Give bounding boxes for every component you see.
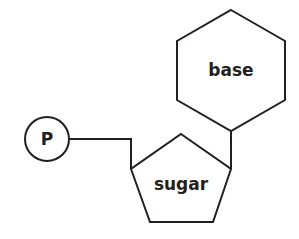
sugar-group: sugar xyxy=(131,134,231,222)
base-group: base xyxy=(177,10,285,131)
sugar-label: sugar xyxy=(154,174,209,194)
phosphate-sugar-bond xyxy=(69,139,131,169)
phosphate-group: P xyxy=(25,117,69,161)
base-label: base xyxy=(208,60,253,80)
nucleotide-diagram: base sugar P xyxy=(0,0,299,239)
phosphate-label: P xyxy=(41,129,53,149)
